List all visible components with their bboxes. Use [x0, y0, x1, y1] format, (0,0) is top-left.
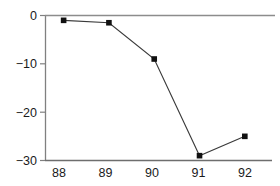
chart-figure: 0 −10 −20 −30 88 89 90 91 92 [0, 0, 280, 186]
y-tick-label-0: 0 [30, 9, 37, 23]
data-point-88 [61, 18, 67, 24]
data-point-89 [106, 20, 112, 26]
y-tick-label-minus-20: −20 [16, 106, 37, 120]
x-tick-label-89: 89 [99, 166, 113, 180]
x-tick-label-90: 90 [145, 166, 159, 180]
y-tick-label-minus-30: −30 [16, 154, 37, 168]
x-tick-label-92: 92 [238, 166, 252, 180]
y-tick-label-minus-10: −10 [16, 57, 37, 71]
x-tick-label-91: 91 [192, 166, 206, 180]
line-chart: 0 −10 −20 −30 88 89 90 91 92 [0, 0, 280, 186]
x-tick-label-88: 88 [52, 166, 66, 180]
chart-background [0, 0, 280, 186]
data-point-90 [151, 56, 157, 62]
data-point-91 [197, 153, 203, 159]
data-point-92 [242, 134, 248, 140]
